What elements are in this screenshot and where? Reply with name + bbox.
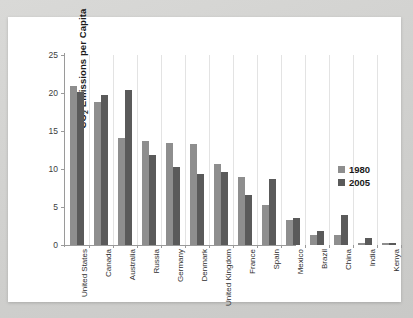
x-tick-label: Germany bbox=[177, 249, 185, 282]
x-tick-label: Canada bbox=[105, 249, 113, 277]
bar-2005[interactable] bbox=[125, 90, 132, 245]
legend-item[interactable]: 2005 bbox=[338, 178, 370, 188]
bar-group[interactable] bbox=[89, 55, 113, 245]
bar-1980[interactable] bbox=[142, 141, 149, 245]
x-tick-label: Australia bbox=[129, 249, 137, 280]
chart-card: CO2 Emissions per Capita 0510152025 Unit… bbox=[8, 17, 401, 302]
bar-1980[interactable] bbox=[262, 205, 269, 245]
plot-area bbox=[65, 55, 401, 245]
x-tick-mark bbox=[209, 245, 210, 248]
bar-1980[interactable] bbox=[190, 144, 197, 245]
x-tick-mark bbox=[89, 245, 90, 248]
x-tick-mark bbox=[233, 245, 234, 248]
x-tick-label: United Kingdom bbox=[225, 249, 233, 306]
x-tick-label: China bbox=[345, 249, 353, 270]
bar-group[interactable] bbox=[65, 55, 89, 245]
y-tick-label: 20 bbox=[36, 89, 58, 98]
y-tick-mark bbox=[61, 131, 64, 132]
bar-2005[interactable] bbox=[293, 218, 300, 245]
legend-item[interactable]: 1980 bbox=[338, 165, 370, 175]
bar-group[interactable] bbox=[113, 55, 137, 245]
y-tick-mark bbox=[61, 169, 64, 170]
bar-2005[interactable] bbox=[389, 243, 396, 245]
bar-2005[interactable] bbox=[365, 238, 372, 245]
x-tick-label: Spain bbox=[273, 249, 281, 269]
bar-group[interactable] bbox=[185, 55, 209, 245]
x-tick-label: India bbox=[369, 249, 377, 266]
x-tick-mark bbox=[137, 245, 138, 248]
bar-2005[interactable] bbox=[149, 155, 156, 245]
bar-2005[interactable] bbox=[269, 179, 276, 245]
bar-group[interactable] bbox=[137, 55, 161, 245]
y-tick-mark bbox=[61, 55, 64, 56]
bar-2005[interactable] bbox=[245, 195, 252, 245]
bar-group[interactable] bbox=[257, 55, 281, 245]
x-tick-mark bbox=[161, 245, 162, 248]
bar-1980[interactable] bbox=[118, 138, 125, 245]
bar-1980[interactable] bbox=[310, 235, 317, 245]
bar-1980[interactable] bbox=[70, 86, 77, 245]
x-tick-mark bbox=[185, 245, 186, 248]
bar-group[interactable] bbox=[209, 55, 233, 245]
y-tick-mark bbox=[61, 207, 64, 208]
x-axis-line bbox=[64, 245, 296, 246]
x-tick-label: Brazil bbox=[321, 249, 329, 269]
legend-label: 2005 bbox=[349, 178, 370, 188]
x-tick-mark bbox=[305, 245, 306, 248]
bar-1980[interactable] bbox=[214, 164, 221, 245]
bar-group[interactable] bbox=[233, 55, 257, 245]
bar-group[interactable] bbox=[377, 55, 401, 245]
x-tick-mark bbox=[113, 245, 114, 248]
legend-label: 1980 bbox=[349, 165, 370, 175]
x-tick-label: United States bbox=[81, 249, 89, 297]
bar-group[interactable] bbox=[305, 55, 329, 245]
legend-swatch bbox=[338, 166, 345, 173]
bar-2005[interactable] bbox=[77, 92, 84, 245]
y-tick-mark bbox=[61, 245, 64, 246]
bar-2005[interactable] bbox=[197, 174, 204, 245]
y-tick-mark bbox=[61, 93, 64, 94]
bar-group[interactable] bbox=[281, 55, 305, 245]
chart-legend: 19802005 bbox=[338, 165, 370, 187]
bar-1980[interactable] bbox=[286, 220, 293, 245]
bar-1980[interactable] bbox=[358, 243, 365, 245]
bar-2005[interactable] bbox=[101, 95, 108, 245]
bar-2005[interactable] bbox=[221, 172, 228, 245]
bar-group[interactable] bbox=[161, 55, 185, 245]
bar-1980[interactable] bbox=[238, 177, 245, 245]
bar-1980[interactable] bbox=[94, 102, 101, 245]
x-tick-label: Kenya bbox=[393, 249, 401, 272]
legend-swatch bbox=[338, 179, 345, 186]
x-tick-mark bbox=[281, 245, 282, 248]
bar-1980[interactable] bbox=[166, 143, 173, 245]
bar-group[interactable] bbox=[353, 55, 377, 245]
bar-2005[interactable] bbox=[341, 215, 348, 245]
x-tick-mark bbox=[377, 245, 378, 248]
y-tick-label: 0 bbox=[36, 241, 58, 250]
x-tick-mark bbox=[257, 245, 258, 248]
y-tick-label: 15 bbox=[36, 127, 58, 136]
bar-1980[interactable] bbox=[334, 235, 341, 245]
y-tick-label: 5 bbox=[36, 203, 58, 212]
x-tick-label: Mexico bbox=[297, 249, 305, 274]
x-tick-mark bbox=[353, 245, 354, 248]
x-tick-mark bbox=[329, 245, 330, 248]
x-tick-label: France bbox=[249, 249, 257, 274]
bar-group[interactable] bbox=[329, 55, 353, 245]
y-tick-label: 10 bbox=[36, 165, 58, 174]
bar-1980[interactable] bbox=[382, 243, 389, 245]
x-tick-mark bbox=[401, 245, 402, 248]
x-tick-label: Russia bbox=[153, 249, 161, 273]
y-tick-label: 25 bbox=[36, 51, 58, 60]
bar-2005[interactable] bbox=[173, 167, 180, 245]
x-tick-label: Denmark bbox=[201, 249, 209, 281]
bar-2005[interactable] bbox=[317, 231, 324, 245]
